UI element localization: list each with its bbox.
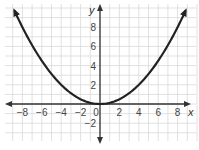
y-axis-arrow-down-icon [97,137,103,144]
y-tick-label: 4 [90,61,96,72]
x-tick-label: 0 [93,107,99,118]
x-tick-label: 4 [136,107,142,118]
x-axis-label: x [187,106,194,118]
y-axis-arrow-up-icon [97,4,103,11]
x-tick-label: −6 [36,107,48,118]
parabola-graph: −8−6−4−202468 −22468 x y [0,0,199,150]
grid-lines [5,4,197,141]
x-tick-label: −2 [75,107,87,118]
y-tick-label: −2 [85,118,97,129]
x-tick-label: 8 [175,107,181,118]
x-tick-label: −8 [17,107,29,118]
y-axis-label: y [88,4,96,16]
x-axis-arrow-left-icon [5,101,12,107]
y-tick-label: 8 [90,22,96,33]
y-tick-label: 6 [90,41,96,52]
x-tick-label: −4 [55,107,67,118]
x-tick-labels: −8−6−4−202468 [17,107,181,118]
y-tick-label: 2 [90,80,96,91]
x-tick-label: 6 [155,107,161,118]
x-tick-label: 2 [117,107,123,118]
